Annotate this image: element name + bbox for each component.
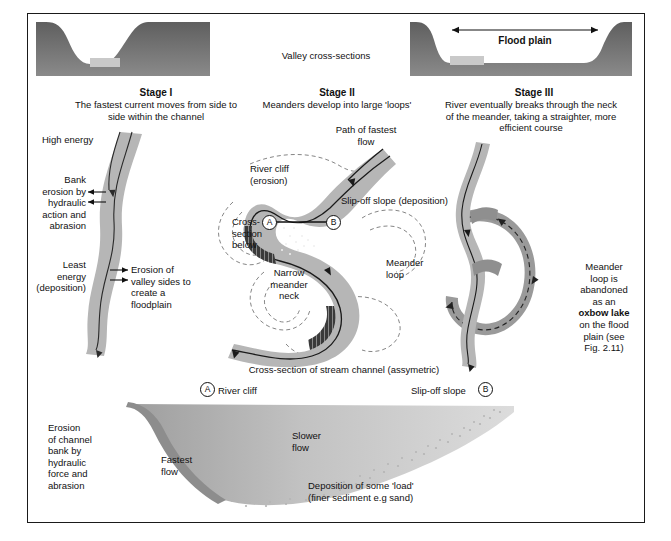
cross-section-erosion-label: Erosion of channel bank by hydraulic for…	[48, 422, 92, 491]
point-b-marker-section: B	[478, 382, 493, 397]
cross-section-fastest-flow-label: Fastest flow	[161, 454, 192, 477]
point-a-marker-section: A	[200, 382, 215, 397]
figure-frame: Flood plain Valley cross-sections Stage …	[27, 13, 645, 523]
cross-section-deposition-label: Deposition of some 'load' (finer sedimen…	[308, 480, 414, 503]
cross-section-river-cliff-label: River cliff	[218, 385, 257, 397]
channel-cross-section-svg	[28, 14, 644, 522]
river-stages-figure: Flood plain Valley cross-sections Stage …	[0, 0, 671, 541]
cross-section-slip-off-label: Slip-off slope	[411, 385, 466, 397]
cross-section-slower-flow-label: Slower flow	[292, 430, 321, 453]
